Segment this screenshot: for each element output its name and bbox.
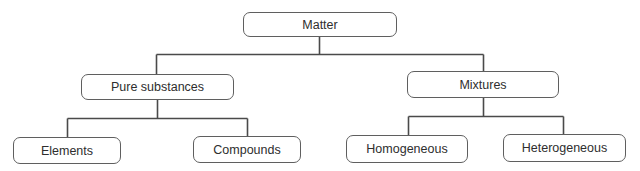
node-heterogeneous: Heterogeneous [503, 134, 626, 162]
node-mixtures-label: Mixtures [459, 78, 506, 92]
node-pure-substances: Pure substances [81, 74, 234, 100]
node-elements-label: Elements [41, 144, 93, 158]
node-elements: Elements [13, 137, 121, 164]
node-homogeneous-label: Homogeneous [366, 142, 447, 156]
node-heterogeneous-label: Heterogeneous [522, 141, 607, 155]
node-compounds-label: Compounds [213, 143, 280, 157]
node-compounds: Compounds [193, 136, 301, 163]
node-matter-label: Matter [302, 18, 337, 32]
node-matter: Matter [243, 12, 397, 37]
node-homogeneous: Homogeneous [346, 135, 468, 163]
matter-classification-diagram: Matter Pure substances Mixtures Elements… [0, 0, 640, 171]
node-pure-substances-label: Pure substances [111, 80, 204, 94]
node-mixtures: Mixtures [407, 71, 559, 98]
